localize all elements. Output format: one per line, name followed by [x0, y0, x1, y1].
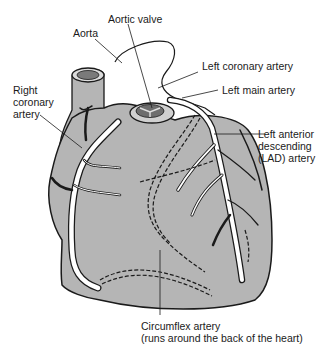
label-lad-artery: Left anterior descending (LAD) artery	[258, 128, 315, 164]
label-aortic-valve: Aortic valve	[108, 13, 162, 25]
aortic-valve	[130, 103, 174, 123]
label-left-coronary-artery: Left coronary artery	[202, 60, 293, 72]
heart-diagram	[0, 0, 325, 357]
label-circumflex-artery: Circumflex artery (runs around the back …	[141, 320, 303, 344]
label-aorta: Aorta	[73, 27, 98, 39]
label-left-main-artery: Left main artery	[222, 84, 295, 96]
label-right-coronary-artery: Right coronary artery	[13, 84, 54, 120]
